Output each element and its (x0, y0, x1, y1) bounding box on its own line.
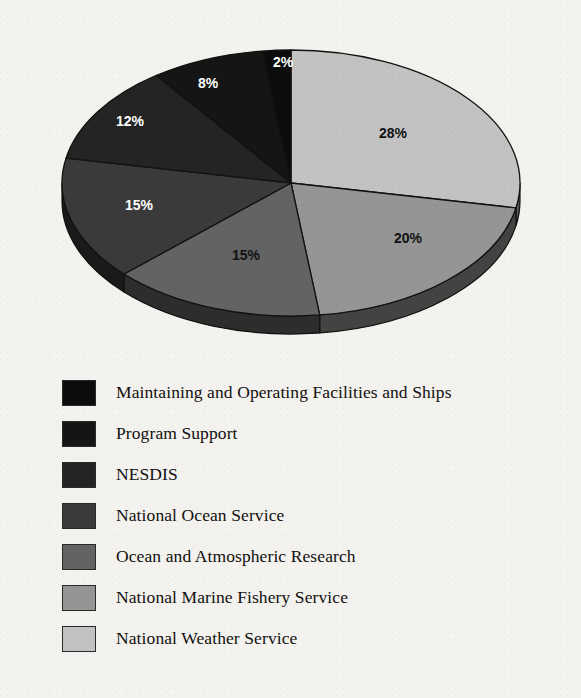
legend-label-national-marine-fishery-service: National Marine Fishery Service (116, 587, 348, 608)
pie-chart-page: 28%20%15%15%12%8%2% Maintaining and Oper… (0, 0, 581, 698)
legend-item-program-support[interactable]: Program Support (62, 413, 562, 454)
legend-item-nesdis[interactable]: NESDIS (62, 454, 562, 495)
legend-swatch-national-ocean-service (62, 503, 96, 529)
legend-item-maintaining-and-operating-facilities-and-ships[interactable]: Maintaining and Operating Facilities and… (62, 372, 562, 413)
legend-swatch-ocean-and-atmospheric-research (62, 544, 96, 570)
pie-top-layer (62, 50, 520, 316)
legend-swatch-national-weather-service (62, 626, 96, 652)
legend-item-national-marine-fishery-service[interactable]: National Marine Fishery Service (62, 577, 562, 618)
legend-swatch-nesdis (62, 462, 96, 488)
pie-chart-svg: 28%20%15%15%12%8%2% (0, 0, 581, 345)
legend-item-national-ocean-service[interactable]: National Ocean Service (62, 495, 562, 536)
legend-label-maintaining-and-operating-facilities-and-ships: Maintaining and Operating Facilities and… (116, 382, 452, 403)
legend-label-national-ocean-service: National Ocean Service (116, 505, 284, 526)
pie-chart-figure: 28%20%15%15%12%8%2% (0, 0, 581, 345)
legend-item-national-weather-service[interactable]: National Weather Service (62, 618, 562, 659)
legend-item-ocean-and-atmospheric-research[interactable]: Ocean and Atmospheric Research (62, 536, 562, 577)
legend-swatch-national-marine-fishery-service (62, 585, 96, 611)
legend-label-program-support: Program Support (116, 423, 238, 444)
pie-slice-national-weather-service[interactable] (291, 50, 520, 208)
legend-label-ocean-and-atmospheric-research: Ocean and Atmospheric Research (116, 546, 356, 567)
legend-swatch-maintaining-and-operating-facilities-and-ships (62, 380, 96, 406)
legend-label-national-weather-service: National Weather Service (116, 628, 297, 649)
chart-legend: Maintaining and Operating Facilities and… (62, 372, 562, 659)
legend-label-nesdis: NESDIS (116, 464, 178, 485)
legend-swatch-program-support (62, 421, 96, 447)
